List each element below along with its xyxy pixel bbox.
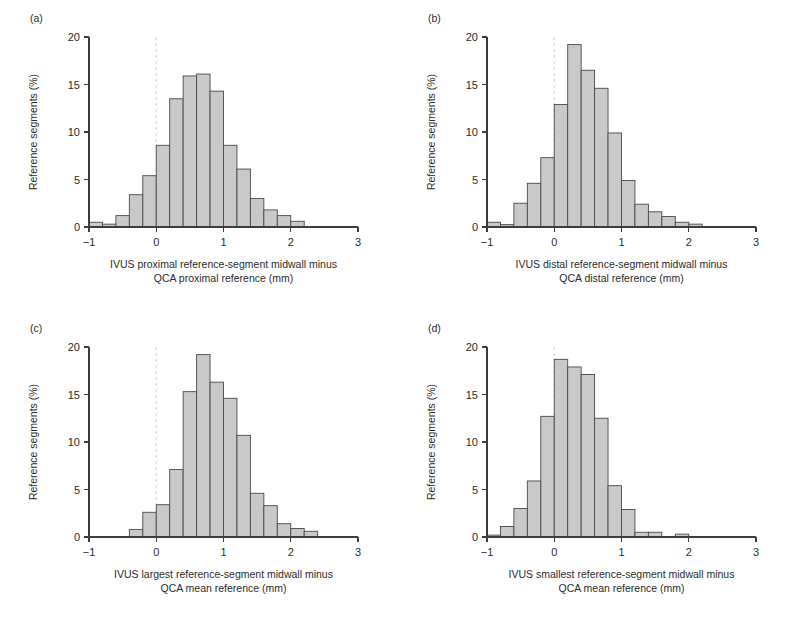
x-tick-label: −1 xyxy=(481,236,494,248)
histogram-bars xyxy=(89,74,304,227)
histogram-bar xyxy=(662,217,675,227)
y-tick-label: 20 xyxy=(68,341,80,353)
x-tick-label: 2 xyxy=(288,236,294,248)
y-tick-label: 15 xyxy=(68,389,80,401)
y-tick-label: 10 xyxy=(466,436,478,448)
histogram-bar xyxy=(224,398,237,537)
y-tick-label: 20 xyxy=(68,31,80,43)
x-tick-label: 3 xyxy=(355,546,361,558)
histogram-bar xyxy=(514,203,527,227)
x-tick-label: 3 xyxy=(753,236,759,248)
histogram-bar xyxy=(675,222,688,227)
histogram-bar xyxy=(250,493,263,537)
y-axis-title: Reference segments (%) xyxy=(27,74,39,190)
histogram-bar xyxy=(129,195,142,227)
panel-label: (d) xyxy=(428,322,441,334)
y-tick-label: 5 xyxy=(472,174,478,186)
x-tick-label: −1 xyxy=(481,546,494,558)
x-tick-label: 2 xyxy=(686,236,692,248)
y-tick-label: 15 xyxy=(466,79,478,91)
x-tick-label: 3 xyxy=(355,236,361,248)
y-tick-label: 20 xyxy=(466,31,478,43)
y-tick-label: 15 xyxy=(68,79,80,91)
x-tick-label: 2 xyxy=(288,546,294,558)
histogram-bar xyxy=(622,509,635,537)
histogram-bar xyxy=(183,76,196,227)
histogram-bars xyxy=(487,359,689,537)
histogram-bar xyxy=(568,45,581,227)
histogram-bar xyxy=(291,528,304,537)
y-tick-label: 20 xyxy=(466,341,478,353)
y-tick-label: 15 xyxy=(466,389,478,401)
y-tick-label: 5 xyxy=(74,484,80,496)
y-tick-label: 0 xyxy=(472,221,478,233)
x-tick-label: 3 xyxy=(753,546,759,558)
panel-label: (a) xyxy=(30,12,43,24)
histogram-bar xyxy=(170,99,183,227)
histogram-bar xyxy=(264,210,277,227)
histogram-bar xyxy=(595,88,608,227)
histogram-bar xyxy=(568,367,581,537)
panel-b: (b)Reference segments (%)05101520−10123I… xyxy=(425,12,759,284)
histogram-bar xyxy=(89,222,102,227)
histogram-bar xyxy=(648,212,661,227)
x-axis-title-line2: QCA distal reference (mm) xyxy=(559,272,683,284)
y-tick-label: 10 xyxy=(68,436,80,448)
x-tick-label: 1 xyxy=(618,546,624,558)
histogram-bar xyxy=(224,145,237,227)
histogram-bar xyxy=(554,359,567,537)
x-axis-title-line1: IVUS largest reference-segment midwall m… xyxy=(114,568,333,580)
x-tick-label: 0 xyxy=(153,236,159,248)
histogram-bar xyxy=(237,169,250,227)
histogram-bar xyxy=(156,505,169,537)
x-axis-title-line2: QCA proximal reference (mm) xyxy=(154,272,293,284)
panel-a: (a)Reference segments (%)05101520−10123I… xyxy=(27,12,361,284)
x-tick-label: 1 xyxy=(220,546,226,558)
histogram-bar xyxy=(304,531,317,537)
histogram-bar xyxy=(487,222,500,227)
histogram-bar xyxy=(143,512,156,537)
y-tick-label: 10 xyxy=(466,126,478,138)
x-axis-title-line2: QCA mean reference (mm) xyxy=(160,582,286,594)
x-tick-label: 0 xyxy=(551,236,557,248)
y-axis-title: Reference segments (%) xyxy=(425,384,437,500)
histogram-bar xyxy=(541,158,554,227)
histogram-bar xyxy=(608,133,621,227)
histogram-bar xyxy=(277,524,290,537)
histogram-figure: (a)Reference segments (%)05101520−10123I… xyxy=(0,0,798,626)
x-axis-title-line1: IVUS proximal reference-segment midwall … xyxy=(110,258,337,270)
y-tick-label: 0 xyxy=(472,531,478,543)
y-tick-label: 0 xyxy=(74,221,80,233)
histogram-bar xyxy=(250,199,263,228)
x-tick-label: 0 xyxy=(551,546,557,558)
histogram-bar xyxy=(648,532,661,537)
histogram-bars xyxy=(487,45,702,227)
panel-c: (c)Reference segments (%)05101520−10123I… xyxy=(27,322,361,594)
histogram-bar xyxy=(197,355,210,537)
histogram-bar xyxy=(595,418,608,537)
histogram-bar xyxy=(635,532,648,537)
y-axis-title: Reference segments (%) xyxy=(425,74,437,190)
histogram-bar xyxy=(143,176,156,227)
histogram-bar xyxy=(210,91,223,227)
histogram-bar xyxy=(129,529,142,537)
figure-caption-strip xyxy=(0,612,798,626)
histogram-bar xyxy=(197,74,210,227)
panel-label: (b) xyxy=(428,12,441,24)
histogram-bar xyxy=(500,527,513,537)
x-axis-title-line1: IVUS smallest reference-segment midwall … xyxy=(509,568,735,580)
y-tick-label: 5 xyxy=(74,174,80,186)
x-tick-label: 0 xyxy=(153,546,159,558)
histogram-bar xyxy=(277,216,290,227)
histogram-bar xyxy=(264,506,277,537)
x-tick-label: −1 xyxy=(83,546,96,558)
histogram-bar xyxy=(581,70,594,227)
x-axis-title-line1: IVUS distal reference-segment midwall mi… xyxy=(516,258,728,270)
histogram-bar xyxy=(237,435,250,537)
x-tick-label: 2 xyxy=(686,546,692,558)
x-tick-label: 1 xyxy=(220,236,226,248)
histogram-bar xyxy=(291,221,304,227)
histogram-bar xyxy=(183,392,196,537)
histogram-bar xyxy=(170,470,183,537)
histogram-bar xyxy=(554,104,567,227)
